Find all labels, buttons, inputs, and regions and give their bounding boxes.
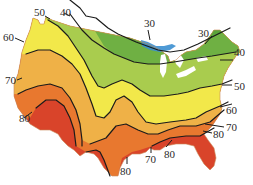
label-30-northeast: 30 (198, 27, 210, 39)
label-70-south: 70 (145, 153, 157, 165)
label-60-east: 60 (226, 104, 238, 116)
label-80-west: 80 (19, 112, 31, 124)
label-30-north: 30 (144, 17, 156, 29)
label-70-west: 70 (5, 74, 17, 86)
label-80-south: 80 (120, 165, 132, 177)
isotherm-map: 50 40 30 30 40 60 50 70 60 80 70 80 80 7… (0, 0, 253, 185)
label-60-west: 60 (3, 31, 15, 43)
label-80-east: 80 (213, 128, 225, 140)
label-40-east: 40 (234, 46, 246, 58)
label-50-west: 50 (34, 6, 46, 18)
label-70-east: 70 (226, 121, 238, 133)
label-40-west: 40 (60, 6, 72, 18)
label-80-gulf: 80 (164, 148, 176, 160)
label-50-east: 50 (234, 80, 246, 92)
map-canvas: 50 40 30 30 40 60 50 70 60 80 70 80 80 7… (0, 0, 253, 185)
